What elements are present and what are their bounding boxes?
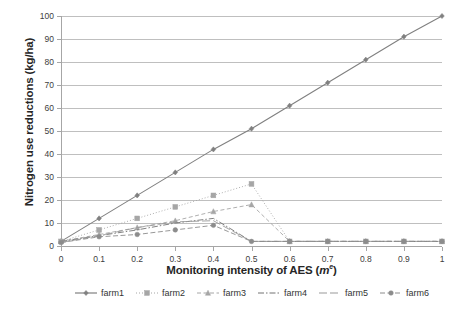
x-tick-mark xyxy=(99,247,100,251)
data-point-marker xyxy=(135,216,140,221)
data-point-marker xyxy=(325,80,330,85)
chart-legend: farm1farm2farm3farm4farm5farm6 xyxy=(61,288,442,298)
legend-item-farm5[interactable]: farm5 xyxy=(318,288,368,298)
data-point-marker xyxy=(211,223,216,228)
legend-swatch-farm5 xyxy=(318,288,342,298)
data-point-marker xyxy=(59,240,64,245)
series-farm1 xyxy=(59,13,445,244)
legend-label: farm6 xyxy=(406,288,429,298)
data-point-marker xyxy=(211,193,216,198)
legend-swatch-farm2 xyxy=(135,288,159,298)
legend-label: farm3 xyxy=(223,288,246,298)
legend-label: farm4 xyxy=(284,288,307,298)
data-point-marker xyxy=(287,239,292,244)
legend-item-farm1[interactable]: farm1 xyxy=(74,288,124,298)
x-tick-mark xyxy=(175,247,176,251)
data-point-marker xyxy=(389,291,394,296)
data-point-marker xyxy=(364,239,369,244)
data-point-marker xyxy=(249,126,254,131)
x-axis-title-main: Monitoring intensity of AES ( xyxy=(166,264,319,276)
data-point-marker xyxy=(135,232,140,237)
data-point-marker xyxy=(249,182,254,187)
x-axis-unit: me xyxy=(319,264,333,276)
legend-item-farm4[interactable]: farm4 xyxy=(257,288,307,298)
series-farm2 xyxy=(59,182,445,244)
legend-label: farm2 xyxy=(162,288,185,298)
series-line xyxy=(61,205,442,242)
data-point-marker xyxy=(287,103,292,108)
data-point-marker xyxy=(249,239,254,244)
legend-item-farm2[interactable]: farm2 xyxy=(135,288,185,298)
series-line xyxy=(61,218,442,241)
legend-swatch-farm6 xyxy=(379,288,403,298)
y-tick-label: 0 xyxy=(49,241,54,251)
data-point-marker xyxy=(402,34,407,39)
x-tick-mark xyxy=(137,247,138,251)
data-point-marker xyxy=(173,170,178,175)
x-tick-mark xyxy=(290,247,291,251)
x-tick-mark xyxy=(213,247,214,251)
x-tick-mark xyxy=(252,247,253,251)
data-point-marker xyxy=(84,290,89,295)
data-point-marker xyxy=(440,239,445,244)
legend-item-farm3[interactable]: farm3 xyxy=(196,288,246,298)
data-point-marker xyxy=(173,205,178,210)
data-point-marker xyxy=(402,239,407,244)
y-tick-label: 90 xyxy=(45,34,54,44)
data-point-marker xyxy=(440,13,445,18)
data-point-marker xyxy=(145,291,150,296)
line-chart: Nitrogen use reductions (kg/ha) 01020304… xyxy=(0,0,471,322)
x-tick-mark xyxy=(366,247,367,251)
y-tick-label: 30 xyxy=(45,172,54,182)
series-layer xyxy=(61,16,442,247)
legend-swatch-farm3 xyxy=(196,288,220,298)
legend-item-farm6[interactable]: farm6 xyxy=(379,288,429,298)
y-tick-label: 20 xyxy=(45,195,54,205)
data-point-marker xyxy=(325,239,330,244)
legend-label: farm5 xyxy=(345,288,368,298)
x-axis-unit-base: m xyxy=(319,264,329,276)
x-tick-mark xyxy=(328,247,329,251)
series-farm4 xyxy=(61,218,442,241)
y-tick-label: 10 xyxy=(45,218,54,228)
y-tick-label: 60 xyxy=(45,103,54,113)
x-axis-title-tail: ) xyxy=(333,264,337,276)
legend-swatch-farm1 xyxy=(74,288,98,298)
x-tick-mark xyxy=(442,247,443,251)
y-tick-label: 70 xyxy=(45,80,54,90)
data-point-marker xyxy=(364,57,369,62)
x-tick-mark xyxy=(61,247,62,251)
y-tick-label: 40 xyxy=(45,149,54,159)
legend-swatch-farm4 xyxy=(257,288,281,298)
y-axis-title: Nitrogen use reductions (kg/ha) xyxy=(23,0,35,247)
data-point-marker xyxy=(97,235,102,240)
y-tick-label: 50 xyxy=(45,126,54,136)
legend-label: farm1 xyxy=(101,288,124,298)
data-point-marker xyxy=(173,228,178,233)
data-point-marker xyxy=(97,216,102,221)
data-point-marker xyxy=(135,193,140,198)
data-point-marker xyxy=(249,202,254,207)
y-tick-label: 100 xyxy=(40,11,54,21)
plot-area: 0102030405060708090100 00.10.20.30.40.50… xyxy=(61,16,442,246)
x-tick-mark xyxy=(404,247,405,251)
x-axis-title: Monitoring intensity of AES (me) xyxy=(61,263,442,276)
data-point-marker xyxy=(211,147,216,152)
y-tick-label: 80 xyxy=(45,57,54,67)
